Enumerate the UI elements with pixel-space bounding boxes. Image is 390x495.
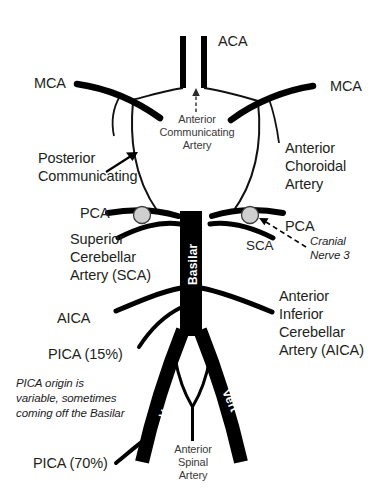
basilar-artery-label: Basilar (186, 244, 200, 285)
cranial-nerve-3-left-circle (134, 207, 151, 224)
mca-left-label: MCA (34, 75, 66, 92)
cranial-nerve-3-right-circle (242, 207, 259, 224)
aca-label: ACA (218, 33, 248, 50)
acom-label-line3: Artery (168, 139, 226, 152)
pica-70-label: PICA (70%) (33, 455, 108, 472)
pca-right-label: PCA (285, 218, 315, 235)
pica-note-line1: PICA origin is (16, 377, 84, 391)
pica-15-label: PICA (15%) (48, 346, 123, 363)
anterior-spinal-label-line2: Spinal (165, 456, 221, 469)
sca-right-label: SCA (246, 238, 273, 254)
aica-right-vessel (201, 288, 272, 312)
cranial-nerve-3-label-line1: Cranial (310, 235, 346, 249)
anterior-choroidal-label-line2: Choroidal (285, 158, 346, 175)
a1-left-segment (132, 88, 183, 100)
circle-of-willis-diagram: ACA Anterior Communicating Artery MCA MC… (0, 0, 390, 495)
mca-right-vessel (231, 86, 313, 120)
anterior-spinal-right-limb (193, 358, 210, 406)
sca-left-label-line1: Superior (70, 231, 124, 248)
anterior-spinal-label-line1: Anterior (165, 443, 221, 456)
aica-right-label-line3: Cerebellar (279, 324, 345, 341)
sca-right-vessel (210, 223, 273, 238)
aica-right-label-line1: Anterior (279, 288, 329, 305)
acom-arrow-head (192, 88, 200, 96)
sca-left-label-line3: Artery (SCA) (70, 267, 151, 284)
pcom-label-line2: Communicating (38, 168, 137, 185)
aica-right-label-line4: Artery (AICA) (279, 342, 364, 359)
acom-label-line2: Communicating (155, 126, 239, 139)
aica-right-label-line2: Inferior (279, 306, 323, 323)
anterior-spinal-label-line3: Artery (165, 469, 221, 482)
cranial-nerve-3-leader-arrowhead (259, 218, 269, 225)
acom-label-line1: Anterior (166, 113, 228, 126)
pica-note-line2: variable, sometimes (16, 392, 116, 406)
a1-right-segment (204, 88, 258, 101)
pcom-label-line1: Posterior (38, 150, 95, 167)
anterior-choroidal-label-line1: Anterior (285, 140, 335, 157)
sca-left-label-line2: Cerebellar (70, 249, 136, 266)
cranial-nerve-3-label-line2: Nerve 3 (310, 249, 350, 263)
anterior-choroidal-label-line3: Artery (285, 176, 323, 193)
sca-left-vessel (118, 223, 180, 238)
anterior-choroidal-artery-vessel (269, 99, 279, 143)
internal-carotid-left (113, 96, 120, 136)
pica-note-line3: coming off the Basilar (16, 407, 124, 421)
mca-left-vessel (77, 84, 160, 118)
aica-left-vessel (116, 288, 181, 311)
pca-left-label: PCA (80, 205, 110, 222)
aica-left-label: AICA (57, 310, 90, 327)
mca-right-label: MCA (330, 78, 362, 95)
